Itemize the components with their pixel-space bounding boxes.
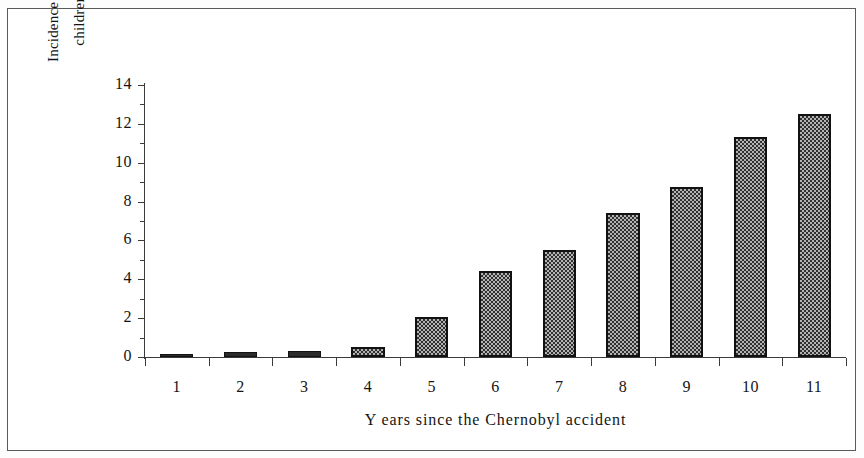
bar bbox=[606, 213, 639, 357]
y-axis-title: Incidence per 100 000 children exposed bbox=[40, 0, 96, 108]
figure-canvas: Incidence per 100 000 children exposed 0… bbox=[0, 0, 864, 458]
bar bbox=[479, 271, 512, 357]
y-axis-tick-label: 0 bbox=[98, 348, 132, 364]
x-axis-line bbox=[144, 357, 846, 358]
x-axis-tick-label: 10 bbox=[730, 378, 770, 396]
y-axis-tick-label: 2 bbox=[98, 309, 132, 325]
bar bbox=[288, 351, 321, 357]
y-axis-tick-label: 8 bbox=[98, 193, 132, 209]
x-axis-tick bbox=[527, 358, 528, 366]
x-axis-tick bbox=[400, 358, 401, 366]
y-axis-tick-major bbox=[138, 240, 145, 241]
bar bbox=[160, 354, 193, 357]
bar bbox=[670, 187, 703, 357]
y-axis-tick-major bbox=[138, 85, 145, 86]
x-axis-tick-label: 9 bbox=[667, 378, 707, 396]
plot-area bbox=[145, 85, 846, 357]
y-axis-tick-major bbox=[138, 279, 145, 280]
x-axis-title: Y ears since the Chernobyl accident bbox=[145, 410, 846, 430]
x-axis-tick-label: 11 bbox=[794, 378, 834, 396]
y-axis-title-line-1: Incidence per 100 000 bbox=[40, 0, 66, 108]
x-axis-tick bbox=[782, 358, 783, 366]
x-axis-tick-label: 2 bbox=[221, 378, 261, 396]
y-axis-tick-major bbox=[138, 202, 145, 203]
x-axis-tick bbox=[655, 358, 656, 366]
y-axis-tick-label: 4 bbox=[98, 270, 132, 286]
x-axis-tick bbox=[846, 358, 847, 366]
bar bbox=[543, 250, 576, 357]
bar bbox=[351, 347, 384, 357]
x-axis-tick-label: 5 bbox=[412, 378, 452, 396]
bar bbox=[798, 114, 831, 357]
x-axis-tick-label: 3 bbox=[284, 378, 324, 396]
y-axis-tick-major bbox=[138, 124, 145, 125]
x-axis-tick-label: 6 bbox=[476, 378, 516, 396]
y-axis-tick-label: 10 bbox=[98, 154, 132, 170]
y-axis-tick-major bbox=[138, 357, 145, 358]
x-axis-tick-label: 7 bbox=[539, 378, 579, 396]
y-axis-tick-major bbox=[138, 318, 145, 319]
y-axis-title-line-2: children exposed bbox=[66, 0, 92, 108]
bar bbox=[415, 317, 448, 357]
x-axis-tick bbox=[209, 358, 210, 366]
x-axis-tick-label: 1 bbox=[157, 378, 197, 396]
x-axis-tick bbox=[336, 358, 337, 366]
y-axis-tick-major bbox=[138, 163, 145, 164]
x-axis-tick bbox=[145, 358, 146, 366]
x-axis-tick bbox=[719, 358, 720, 366]
x-axis-tick bbox=[272, 358, 273, 366]
bar bbox=[224, 352, 257, 357]
y-axis-tick-label: 14 bbox=[98, 76, 132, 92]
x-axis-tick-label: 4 bbox=[348, 378, 388, 396]
bar bbox=[734, 137, 767, 357]
y-axis-tick-label: 6 bbox=[98, 231, 132, 247]
x-axis-tick bbox=[591, 358, 592, 366]
y-axis-tick-label: 12 bbox=[98, 115, 132, 131]
x-axis-tick bbox=[464, 358, 465, 366]
x-axis-tick-label: 8 bbox=[603, 378, 643, 396]
